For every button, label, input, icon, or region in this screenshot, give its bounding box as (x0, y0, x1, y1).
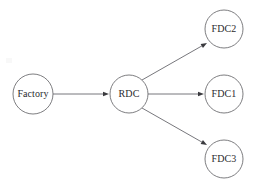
network-diagram-canvas: FactoryRDCFDC2FDC1FDC3 (0, 0, 256, 186)
node-label: RDC (119, 88, 140, 99)
node-factory[interactable]: Factory (13, 74, 53, 114)
edge-rdc-to-fdc1 (148, 92, 204, 97)
node-rdc[interactable]: RDC (110, 75, 148, 113)
node-fdc1[interactable]: FDC1 (205, 75, 243, 113)
edge-rdc-to-fdc2 (142, 43, 207, 80)
scan-artifact-speck (6, 58, 12, 63)
node-fdc2[interactable]: FDC2 (205, 10, 243, 48)
nodes-group: FactoryRDCFDC2FDC1FDC3 (13, 10, 243, 178)
arrow-head-icon (103, 92, 109, 97)
arrow-head-icon (198, 92, 204, 97)
node-label: FDC3 (212, 153, 237, 164)
node-label: Factory (17, 88, 48, 99)
arrow-head-icon (201, 140, 207, 145)
node-label: FDC1 (212, 88, 237, 99)
node-fdc3[interactable]: FDC3 (205, 140, 243, 178)
edge-factory-to-rdc (53, 92, 109, 97)
edge-rdc-to-fdc3 (142, 108, 207, 145)
network-diagram: FactoryRDCFDC2FDC1FDC3 (0, 0, 256, 186)
edge-line (142, 45, 203, 80)
arrow-head-icon (201, 43, 207, 48)
node-label: FDC2 (212, 23, 237, 34)
edge-line (142, 108, 203, 143)
